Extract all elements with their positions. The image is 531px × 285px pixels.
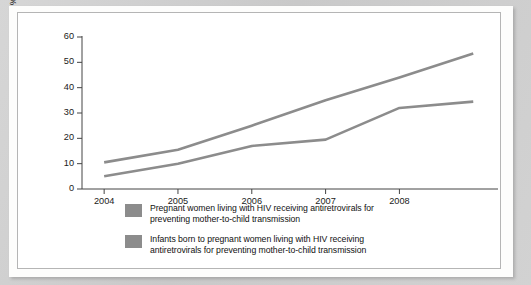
scanned-page-background: % receiving antiretrovirals for preventi… <box>0 0 531 285</box>
y-tick-label: 20 <box>50 132 74 142</box>
x-tick-label: 2004 <box>84 196 124 206</box>
legend-label-pregnant-women-line-2: preventing mother-to-child transmission <box>150 214 374 225</box>
legend-swatch-infants <box>125 235 142 248</box>
figure-frame: % receiving antiretrovirals for preventi… <box>17 12 501 269</box>
legend-label-pregnant-women: Pregnant women living with HIV receiving… <box>150 203 374 224</box>
legend-label-pregnant-women-line-1: Pregnant women living with HIV receiving… <box>150 203 374 214</box>
plot-area: % receiving antiretrovirals for preventi… <box>18 13 502 270</box>
chart-legend: Pregnant women living with HIV receiving… <box>125 203 475 265</box>
data-series-group <box>104 53 473 176</box>
y-tick-label: 0 <box>50 183 74 193</box>
y-tick-label: 10 <box>50 158 74 168</box>
y-axis-title-line-1: % receiving antiretrovirals for preventi… <box>8 0 19 5</box>
legend-label-infants: Infants born to pregnant women living wi… <box>150 234 366 255</box>
y-tick-label: 40 <box>50 82 74 92</box>
paper-sheet: % receiving antiretrovirals for preventi… <box>9 6 513 277</box>
y-tick-label: 60 <box>50 31 74 41</box>
legend-item-pregnant-women: Pregnant women living with HIV receiving… <box>125 203 475 224</box>
axis-ticks <box>77 37 399 194</box>
data-line-series-0 <box>104 53 473 162</box>
legend-label-infants-line-2: antiretrovirals for preventing mother-to… <box>150 245 366 256</box>
legend-item-infants: Infants born to pregnant women living wi… <box>125 234 475 255</box>
y-tick-label: 50 <box>50 56 74 66</box>
legend-label-infants-line-1: Infants born to pregnant women living wi… <box>150 234 366 245</box>
legend-swatch-pregnant-women <box>125 204 142 217</box>
y-tick-label: 30 <box>50 107 74 117</box>
